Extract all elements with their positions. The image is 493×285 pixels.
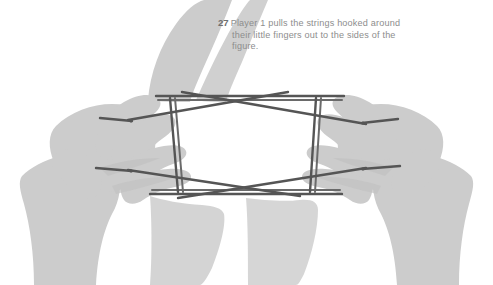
right-lower-wrap-point [361, 167, 364, 170]
left-lower-wrap-point [129, 169, 132, 172]
illustration-page: 27Player 1 pulls the strings hooked arou… [0, 0, 493, 285]
step-caption: 27Player 1 pulls the strings hooked arou… [218, 17, 408, 53]
step-caption-text: Player 1 pulls the strings hooked around… [231, 18, 400, 51]
step-number: 27 [218, 17, 229, 28]
right-upper-wrap-point [361, 121, 364, 124]
left-upper-wrap-point [129, 119, 132, 122]
